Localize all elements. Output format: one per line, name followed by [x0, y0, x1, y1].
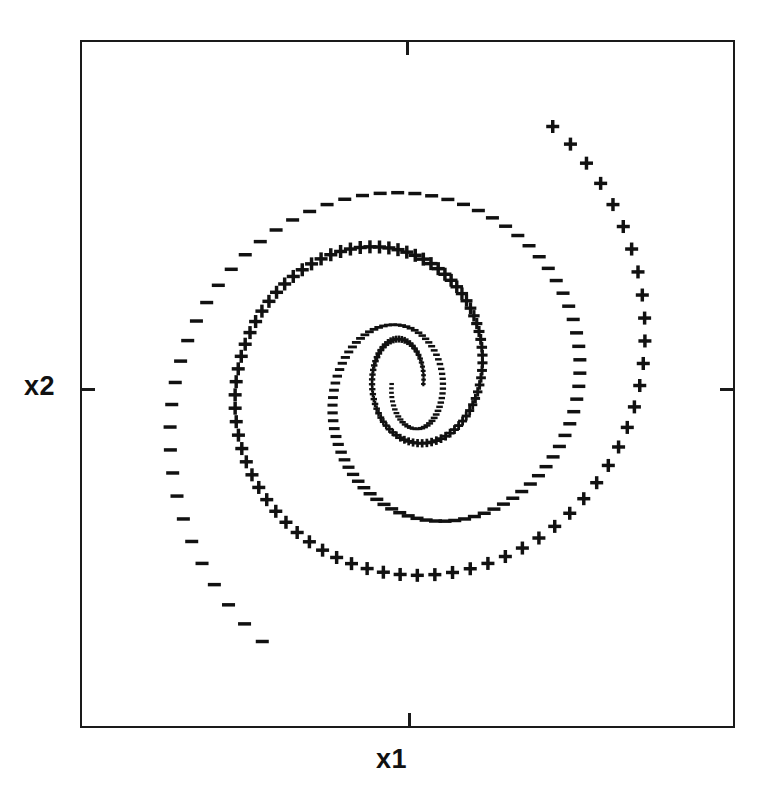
data-point-class_plus: [361, 562, 374, 575]
axis-tick-bottom: [408, 713, 411, 726]
data-point-class_plus: [625, 243, 638, 256]
data-point-class_plus: [255, 305, 268, 318]
data-point-class_plus: [564, 138, 577, 151]
data-point-class_plus: [516, 542, 529, 555]
data-point-class_plus: [499, 550, 512, 563]
data-point-class_plus: [262, 295, 275, 308]
data-point-class_plus: [269, 505, 282, 518]
data-point-class_plus: [594, 177, 607, 190]
data-point-class_plus: [278, 277, 291, 290]
data-point-class_plus: [316, 544, 329, 557]
data-point-class_plus: [291, 526, 304, 539]
data-point-class_plus: [260, 493, 273, 506]
data-point-class_plus: [230, 415, 243, 428]
axis-tick-top: [406, 42, 409, 55]
data-point-class_plus: [345, 557, 358, 570]
data-point-class_plus: [394, 568, 407, 581]
data-point-class_plus: [464, 562, 477, 575]
data-point-class_plus: [475, 334, 486, 345]
axis-tick-left: [82, 388, 95, 391]
data-point-class_plus: [628, 400, 641, 413]
series-class_minus: [164, 193, 587, 642]
data-point-class_plus: [279, 516, 292, 529]
data-point-class_plus: [239, 338, 252, 351]
data-point-class_plus: [546, 120, 559, 133]
data-point-class_plus: [287, 270, 300, 283]
data-point-class_plus: [617, 220, 630, 233]
data-point-class_plus: [252, 481, 265, 494]
data-point-class_plus: [532, 531, 545, 544]
two-spirals-figure: x2 x1: [0, 0, 772, 801]
data-point-class_plus: [446, 566, 459, 579]
scatter-plot-area: [82, 42, 733, 726]
data-point-class_plus: [638, 312, 651, 325]
data-point-class_plus: [636, 289, 649, 302]
data-point-class_plus: [548, 520, 561, 533]
data-point-class_plus: [240, 455, 253, 468]
x-axis-label: x1: [376, 744, 407, 775]
y-axis-label: x2: [24, 371, 55, 402]
plot-frame: [80, 40, 735, 728]
data-point-class_plus: [270, 286, 283, 299]
data-point-class_plus: [229, 388, 242, 401]
data-point-class_plus: [428, 568, 441, 581]
data-point-class_plus: [421, 382, 426, 387]
data-point-class_plus: [602, 459, 615, 472]
data-point-class_plus: [633, 379, 646, 392]
data-point-class_plus: [612, 440, 625, 453]
data-point-class_plus: [427, 438, 436, 447]
series-class_plus: [229, 120, 652, 582]
data-point-class_plus: [344, 243, 357, 256]
data-point-class_plus: [377, 566, 390, 579]
data-point-class_plus: [580, 157, 593, 170]
data-point-class_plus: [638, 334, 651, 347]
data-point-class_plus: [563, 507, 576, 520]
data-point-class_plus: [229, 402, 242, 415]
data-point-class_plus: [577, 492, 590, 505]
data-point-class_plus: [411, 569, 424, 582]
data-point-class_plus: [481, 557, 494, 570]
data-point-class_plus: [245, 468, 258, 481]
data-point-class_plus: [303, 535, 316, 548]
data-point-class_plus: [330, 551, 343, 564]
data-point-class_plus: [232, 362, 245, 375]
data-point-class_plus: [230, 375, 243, 388]
data-point-class_plus: [232, 429, 245, 442]
data-point-class_plus: [606, 198, 619, 211]
data-point-class_plus: [637, 357, 650, 370]
data-point-class_plus: [621, 421, 634, 434]
axis-tick-right: [720, 388, 733, 391]
data-point-class_plus: [421, 373, 426, 378]
data-point-class_plus: [235, 442, 248, 455]
data-point-class_plus: [590, 476, 603, 489]
data-point-class_plus: [421, 377, 426, 382]
data-point-class_plus: [235, 350, 248, 363]
data-point-class_plus: [631, 265, 644, 278]
